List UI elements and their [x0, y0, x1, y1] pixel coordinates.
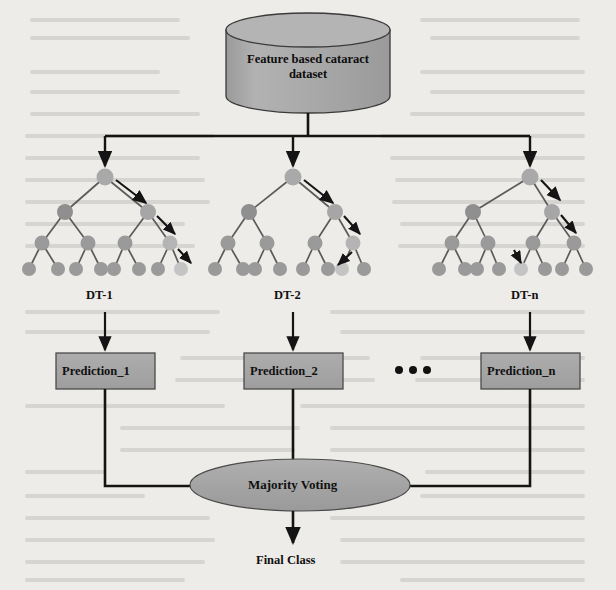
dataset-label: Feature based cataract dataset [223, 52, 393, 82]
ellipsis-icon [395, 366, 431, 374]
tree-n-decision-path [514, 180, 576, 263]
dataset-label-line2: dataset [223, 67, 393, 82]
random-forest-diagram [0, 0, 616, 590]
prediction-1-box[interactable] [56, 353, 155, 389]
prediction-boxes [56, 353, 580, 389]
diagram-canvas: Feature based cataract dataset DT-1 DT-2… [0, 0, 616, 590]
majority-voting-ellipse[interactable] [190, 459, 410, 511]
decision-tree-2 [208, 169, 371, 277]
prediction-n-box[interactable] [481, 353, 580, 389]
tree-1-decision-path [116, 180, 191, 263]
dataset-label-line1: Feature based cataract [223, 52, 393, 67]
prediction-2-box[interactable] [244, 353, 343, 389]
tree-2-edges [215, 177, 364, 269]
